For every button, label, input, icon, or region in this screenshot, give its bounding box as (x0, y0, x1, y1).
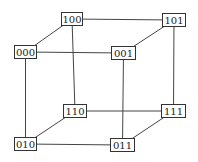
edge-010-011 (26, 144, 123, 145)
node-011: 011 (110, 138, 135, 152)
node-000: 000 (14, 45, 37, 59)
edge-100-110 (72, 19, 75, 111)
node-110: 110 (63, 104, 87, 118)
node-101: 101 (162, 13, 186, 27)
hypercube-diagram: 100101000001110111010011 (0, 0, 198, 162)
node-010: 010 (14, 137, 37, 151)
node-111: 111 (161, 104, 186, 118)
edge-101-111 (174, 20, 175, 111)
edge-000-001 (26, 52, 124, 53)
node-100: 100 (61, 12, 83, 26)
edge-100-101 (72, 19, 174, 20)
edge-001-011 (123, 53, 124, 145)
node-001: 001 (111, 46, 136, 60)
